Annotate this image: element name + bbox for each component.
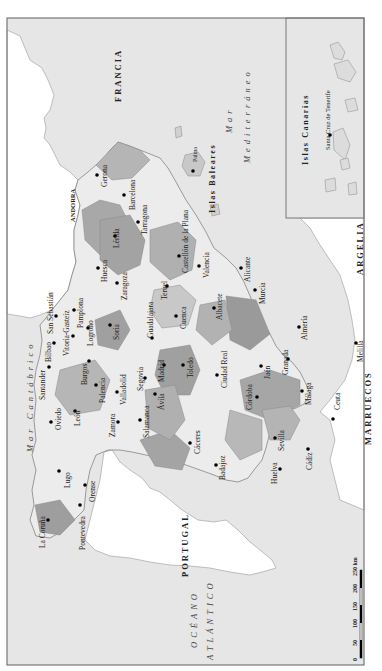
label-cuenca: Cuenca	[179, 307, 188, 330]
label-badajoz: Badajoz	[218, 455, 227, 480]
scale-tick-250: 250 km	[352, 557, 358, 576]
label-salamanca: Salamanca	[142, 406, 151, 438]
label-bilbao: Bilbao	[44, 342, 53, 362]
label-castellon: Castellón de la Plana	[181, 210, 190, 273]
label-sevilla: Sevilla	[277, 430, 286, 451]
scale-tick-50: 50	[352, 640, 358, 646]
label-lerida: Lérida	[112, 228, 121, 248]
label-portugal: PORTUGAL	[180, 513, 190, 577]
label-teruel: Teruel	[160, 281, 169, 300]
label-ciudad-real: Ciudad Real	[220, 351, 229, 388]
label-ceuta: Ceuta	[333, 393, 342, 411]
label-pamplona: Pamplona	[76, 298, 85, 328]
label-palencia: Palencia	[98, 378, 107, 403]
label-murcia: Murcia	[258, 282, 267, 304]
scale-bar	[360, 570, 362, 658]
label-lugo: Lugo	[63, 472, 72, 488]
label-cadiz: Cádiz	[305, 453, 314, 471]
label-argelia: ARGELIA	[355, 221, 365, 275]
label-mediterraneo: Mediterráneo	[242, 68, 252, 163]
label-pontevedra: Pontevedra	[78, 516, 87, 550]
label-segovia: Segovia	[136, 367, 145, 391]
label-almeria: Almería	[300, 315, 309, 340]
label-oviedo: Oviedo	[54, 408, 63, 430]
scale-tick-150: 150	[352, 602, 358, 611]
label-caceres: Cáceres	[193, 430, 202, 454]
label-cordoba: Córdoba	[245, 384, 254, 410]
label-burgos: Burgos	[80, 363, 89, 385]
label-orense: Orense	[88, 481, 97, 502]
label-jaen: Jaén	[263, 366, 272, 379]
label-andorra: ANDORRA	[69, 189, 76, 222]
label-marruecos: MARRUECOS	[363, 371, 373, 445]
label-granada: Granada	[281, 350, 290, 375]
scale-tick-100: 100	[352, 619, 358, 628]
label-toledo: Toledo	[186, 357, 195, 378]
label-avila: Ávila	[157, 393, 166, 410]
label-melilla: Melilla	[356, 340, 365, 362]
label-barcelona: Barcelona	[128, 180, 137, 210]
label-huesca: Huesca	[100, 260, 109, 282]
label-oceano: OCÉANO	[189, 590, 199, 648]
scale-tick-200: 200	[352, 584, 358, 593]
baleares-menorca	[175, 126, 182, 138]
label-tarragona: Tarragona	[140, 205, 149, 235]
label-malaga: Málaga	[304, 383, 313, 406]
label-santander: Santander	[38, 370, 47, 400]
label-san-sebastian: San Sebastián	[46, 292, 55, 334]
label-francia: FRANCIA	[113, 49, 123, 102]
label-mar: Mar	[224, 106, 234, 133]
label-gerona: Gerona	[100, 165, 109, 187]
label-islas-canarias: Islas Canarias	[301, 94, 310, 165]
label-madrid: Madrid	[157, 360, 166, 382]
label-logrono: Logroño	[86, 320, 95, 346]
scale-tick-0: 0	[352, 658, 358, 661]
label-albacete: Albacete	[215, 293, 224, 320]
label-huelva: Huelva	[270, 462, 279, 484]
label-mar-cantabrico: Mar Cantábrico	[25, 341, 35, 453]
label-la-coruna: La Coruña	[38, 516, 47, 548]
label-soria: Soria	[112, 324, 121, 340]
label-islas-baleares: Islas Baleares	[208, 144, 217, 213]
label-alicante: Alicante	[243, 257, 252, 282]
label-valladolid: Valladolid	[119, 374, 128, 405]
label-vitoria: Vitoria-Gasteiz	[62, 310, 71, 356]
label-guadalajara: Guadalajara	[146, 302, 155, 338]
label-santa-cruz-tenerife: Santa Cruz de Tenerife	[324, 90, 331, 150]
label-atlantico: ATLÁNTICO	[205, 579, 215, 660]
label-zaragoza: Zaragoza	[120, 272, 129, 300]
label-valencia: Valencia	[202, 252, 211, 278]
label-zamora: Zamora	[108, 414, 117, 437]
label-leon: León	[73, 411, 82, 426]
label-palma: Palma	[192, 147, 198, 162]
